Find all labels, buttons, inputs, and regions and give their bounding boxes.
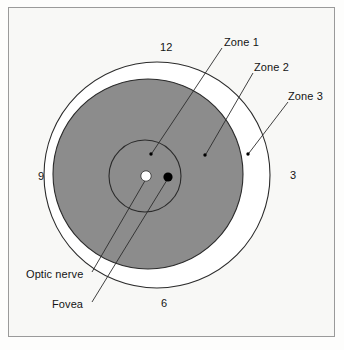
clock-label-3: 3 — [290, 169, 296, 181]
zone-label-3: Zone 3 — [288, 90, 323, 102]
fovea-marker — [163, 172, 172, 181]
zone3-leader-dot — [246, 152, 249, 155]
diagram-page: 12 3 6 9 Zone 1 Zone 2 Zone 3 Optic nerv… — [0, 0, 344, 350]
optic-nerve-marker — [141, 171, 151, 181]
zone-label-2: Zone 2 — [254, 61, 289, 73]
optic-nerve-label: Optic nerve — [26, 268, 83, 280]
clock-label-6: 6 — [161, 297, 167, 309]
zone1-leader-dot — [149, 152, 152, 155]
clock-label-12: 12 — [160, 41, 172, 53]
fovea-label: Fovea — [52, 298, 83, 310]
zone2-leader-dot — [203, 153, 206, 156]
clock-label-9: 9 — [38, 170, 44, 182]
zone-label-1: Zone 1 — [224, 36, 259, 48]
